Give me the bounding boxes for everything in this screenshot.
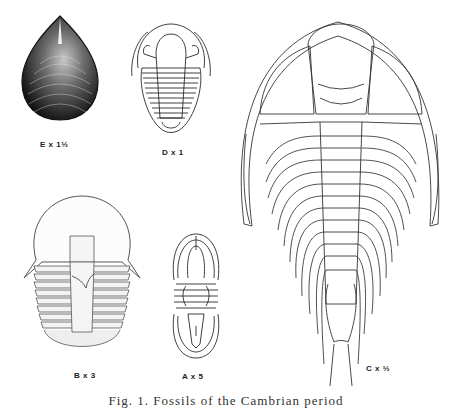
specimen-a-trilobite-illustration (168, 230, 224, 362)
specimen-d-trilobite-illustration (128, 18, 214, 142)
specimen-d-label: D x 1 (162, 148, 184, 157)
specimen-b-trilobite-illustration (12, 192, 152, 362)
specimen-b-label: B x 3 (74, 371, 96, 380)
specimen-a-label: A x 5 (182, 372, 203, 381)
figure-caption: Fig. 1. Fossils of the Cambrian period (0, 393, 452, 409)
specimen-e-shell-illustration (20, 14, 100, 122)
specimen-e-label: E x 1½ (40, 140, 68, 149)
specimen-c-label: C x ⅓ (366, 364, 390, 373)
specimen-c-trilobite-illustration (238, 14, 450, 390)
